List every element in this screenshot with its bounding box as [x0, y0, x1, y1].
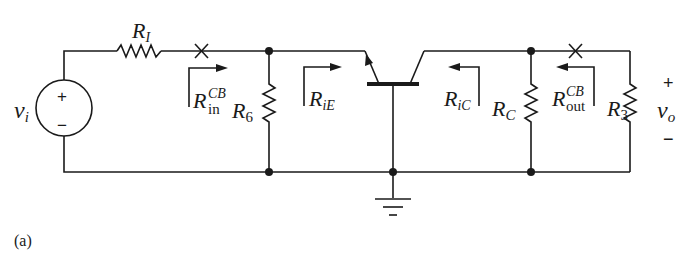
Rin-label: R: [192, 88, 207, 113]
circuit-diagram: + − vi RI R CB in R6 RiE: [0, 0, 689, 253]
resistor-RC: [525, 51, 537, 172]
resistor-R6: [263, 51, 275, 172]
ground-icon: [375, 172, 411, 215]
source-label: vi: [14, 97, 29, 125]
Rout-label: R: [551, 86, 566, 111]
R6-label: R6: [231, 98, 253, 125]
RiC-label: RiC: [443, 86, 471, 113]
Rout-superscript: CB: [566, 84, 584, 99]
Rin-subscript: in: [208, 101, 220, 117]
voltage-source: + −: [36, 80, 92, 136]
wire-bottom: [64, 136, 630, 172]
bjt-transistor: [365, 51, 424, 172]
figure-caption: (a): [14, 232, 32, 250]
arrow-head-icon: [448, 63, 460, 71]
emitter-arrow-icon: [365, 54, 373, 66]
output-label: vo: [657, 97, 676, 125]
RC-label: RC: [491, 96, 516, 123]
RiE-label: RiE: [308, 86, 335, 113]
source-plus: +: [57, 87, 67, 106]
wire-top-left: [64, 51, 117, 80]
arrow-head-icon: [330, 63, 342, 71]
R3-label: R3: [606, 96, 628, 123]
output-plus: +: [663, 73, 674, 93]
source-minus: −: [57, 116, 67, 135]
resistor-RI: [117, 45, 161, 57]
arrow-head-icon: [216, 64, 228, 72]
Rout-subscript: out: [566, 98, 586, 114]
output-minus: −: [663, 129, 674, 149]
RI-label: RI: [131, 18, 151, 45]
arrow-head-icon: [556, 63, 568, 71]
Rin-superscript: CB: [208, 86, 226, 101]
